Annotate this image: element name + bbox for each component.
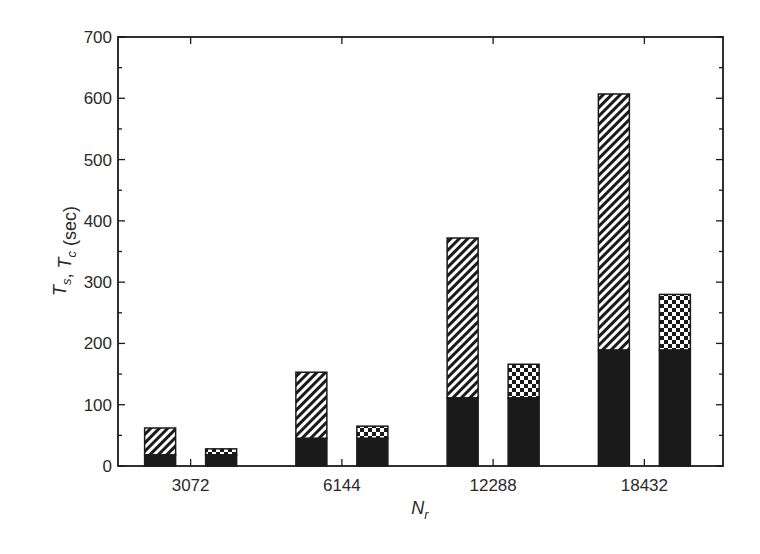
bar-upper-segment xyxy=(659,294,690,350)
bar-upper-segment xyxy=(145,428,176,455)
bar-solid-segment xyxy=(508,398,539,466)
bar-tc-3072 xyxy=(206,449,237,466)
bar-tc-18432 xyxy=(659,294,690,466)
x-tick-label-12288: 12288 xyxy=(469,476,516,495)
bar-ts-12288 xyxy=(447,238,478,466)
bar-upper-segment xyxy=(296,372,327,438)
bar-solid-segment xyxy=(598,350,629,466)
bar-ts-6144 xyxy=(296,372,327,466)
bar-solid-segment xyxy=(357,438,388,466)
bar-upper-segment xyxy=(447,238,478,398)
y-axis-label: Ts, Tc (sec) xyxy=(50,206,80,296)
bar-solid-segment xyxy=(447,398,478,466)
y-tick-label: 100 xyxy=(84,396,112,415)
y-tick-label: 0 xyxy=(103,457,112,476)
bar-upper-segment xyxy=(508,364,539,398)
bar-solid-segment xyxy=(206,455,237,466)
bar-tc-6144 xyxy=(357,426,388,466)
y-tick-label: 500 xyxy=(84,151,112,170)
bar-ts-18432 xyxy=(598,94,629,466)
bar-upper-segment xyxy=(206,449,237,455)
y-tick-label: 600 xyxy=(84,89,112,108)
bars-layer xyxy=(145,94,691,466)
bar-ts-3072 xyxy=(145,428,176,466)
y-tick-label: 300 xyxy=(84,273,112,292)
plot-frame xyxy=(118,37,723,466)
bar-upper-segment xyxy=(598,94,629,350)
stacked-bar-chart: 0100200300400500600700 30726144122881843… xyxy=(0,0,760,554)
y-tick-label: 200 xyxy=(84,334,112,353)
x-tick-label-18432: 18432 xyxy=(621,476,668,495)
bar-upper-segment xyxy=(357,426,388,438)
x-axis: 307261441228818432 xyxy=(172,37,668,495)
x-axis-label: Nr xyxy=(411,498,429,522)
y-tick-label: 400 xyxy=(84,212,112,231)
y-tick-label: 700 xyxy=(84,28,112,47)
x-tick-label-6144: 6144 xyxy=(323,476,361,495)
x-tick-label-3072: 3072 xyxy=(172,476,210,495)
bar-solid-segment xyxy=(296,438,327,466)
bar-solid-segment xyxy=(659,350,690,466)
bar-solid-segment xyxy=(145,455,176,466)
bar-tc-12288 xyxy=(508,364,539,466)
